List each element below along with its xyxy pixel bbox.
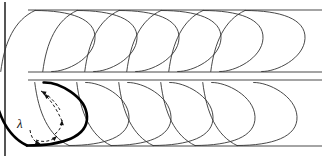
wavelength-lambda-label: λ (16, 116, 23, 131)
vortex-diagram-canvas: λ (0, 0, 333, 158)
vortex-loop-figure: λ (0, 0, 333, 158)
figure-background (0, 0, 333, 158)
